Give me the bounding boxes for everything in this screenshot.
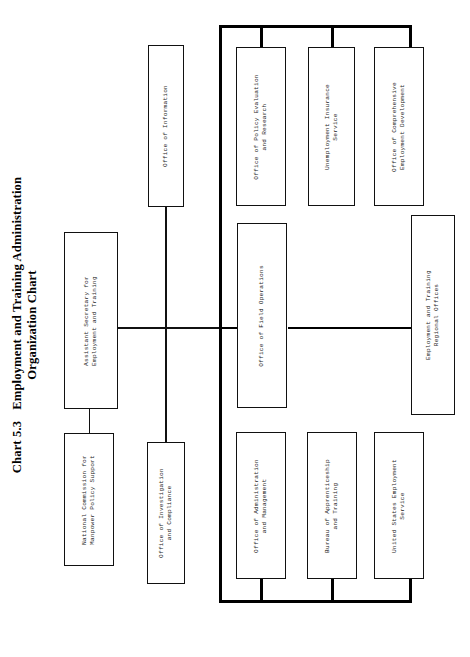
node-label-line1: Assistant Secretary for	[83, 276, 91, 366]
connector-drop-comprehensive-employment	[409, 25, 412, 47]
node-label-line1: Office of Information	[162, 85, 170, 167]
connector-drop-apprenticeship-training	[331, 578, 334, 603]
connector-drop-administration-management	[260, 578, 263, 603]
node-label-line1: National Commission for	[81, 455, 89, 545]
node-office-of-field-operations[interactable]: Office of Field Operations	[237, 223, 287, 408]
node-label-line2: Service	[399, 459, 407, 553]
node-label-line1: Office of Investigation	[158, 468, 166, 558]
connector-dashed-national-commission	[89, 409, 90, 433]
node-office-of-investigation-and-compliance[interactable]: Office of Investigation and Compliance	[147, 442, 185, 584]
chart-title: Chart 5.3Employment and Training Adminis…	[0, 0, 46, 657]
node-label-line2: Manpower Policy Support	[89, 455, 97, 545]
connector-office-of-investigation	[165, 327, 167, 442]
node-office-of-comprehensive-employment-development[interactable]: Office of Comprehensive Employment Devel…	[374, 47, 424, 206]
node-label-line2: Employment and Training	[91, 276, 99, 366]
node-bureau-of-apprenticeship-and-training[interactable]: Bureau of Apprenticeship and Training	[307, 432, 357, 579]
node-label-line1: Office of Comprehensive	[391, 82, 399, 172]
connector-bottom-rail	[219, 600, 412, 603]
connector-field-operations	[219, 327, 237, 330]
chart-title-line1: Employment and Training Administration	[10, 177, 24, 410]
node-office-of-administration-and-management[interactable]: Office of Administration and Management	[236, 432, 286, 579]
chart-subtitle: Organization Chart	[25, 270, 40, 379]
node-unemployment-insurance-service[interactable]: Unemployment Insurance Service	[308, 47, 355, 206]
node-office-of-information[interactable]: Office of Information	[148, 45, 184, 207]
node-label-line1: Unemployment Insurance	[323, 84, 331, 170]
node-national-commission[interactable]: National Commission for Manpower Policy …	[64, 433, 114, 566]
connector-backbone-vertical	[219, 25, 222, 603]
node-label-line2: and Training	[332, 459, 340, 553]
node-office-of-policy-evaluation-and-research[interactable]: Office of Policy Evaluation and Research	[236, 47, 286, 206]
node-label-line2: and Management	[261, 459, 269, 553]
node-label-line1: Employment and Training	[425, 270, 433, 360]
node-label-line1: Office of Field Operations	[258, 265, 266, 367]
connector-drop-us-employment-service	[409, 578, 412, 603]
node-label-line1: Office of Administration	[253, 459, 261, 553]
connector-main-horizontal	[117, 327, 225, 329]
page-title: Chart 5.3Employment and Training Adminis…	[10, 177, 25, 473]
node-label-line2: Employment Development	[399, 82, 407, 172]
node-label-line2: Regional Offices	[433, 270, 441, 360]
connector-drop-policy-evaluation	[260, 25, 263, 47]
connector-top-rail	[219, 25, 412, 28]
node-label-line1: United States Employment	[391, 459, 399, 553]
chart-number: Chart 5.3	[10, 421, 24, 473]
node-label-line2: and Compliance	[166, 468, 174, 558]
connector-field-to-regional	[288, 327, 417, 330]
node-label-line2: and Research	[261, 74, 269, 180]
node-assistant-secretary[interactable]: Assistant Secretary for Employment and T…	[64, 232, 118, 409]
node-employment-and-training-regional-offices[interactable]: Employment and Training Regional Offices	[411, 215, 455, 415]
node-label-line1: Office of Policy Evaluation	[253, 74, 261, 180]
connector-office-of-information	[165, 207, 167, 328]
node-label-line2: Service	[332, 84, 340, 170]
organization-chart: Chart 5.3Employment and Training Adminis…	[0, 0, 470, 657]
node-united-states-employment-service[interactable]: United States Employment Service	[374, 432, 424, 579]
node-label-line1: Bureau of Apprenticeship	[324, 459, 332, 553]
connector-drop-unemployment-insurance	[331, 25, 334, 47]
